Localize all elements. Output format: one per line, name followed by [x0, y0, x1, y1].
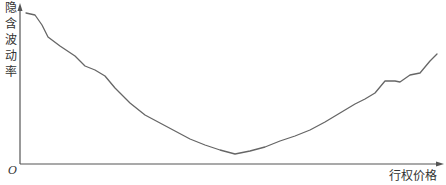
- implied-volatility-curve: [26, 13, 437, 154]
- y-axis-label-char: 隐: [3, 0, 19, 16]
- y-axis-label-char: 动: [3, 48, 19, 64]
- x-axis-label: 行权价格: [389, 166, 437, 183]
- y-axis-label-char: 波: [3, 32, 19, 48]
- y-axis-label-char: 含: [3, 16, 19, 32]
- x-axis-arrow: [436, 162, 444, 167]
- volatility-smile-chart: [0, 0, 446, 185]
- origin-label: O: [8, 164, 17, 177]
- y-axis-label-char: 率: [3, 64, 19, 80]
- y-axis-label: 隐 含 波 动 率: [3, 0, 19, 80]
